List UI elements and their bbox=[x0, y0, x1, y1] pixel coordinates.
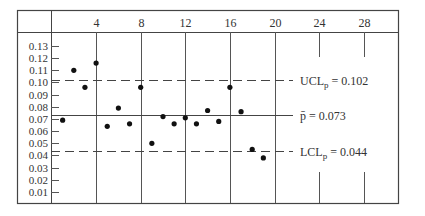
data-point bbox=[194, 121, 199, 126]
x-tick-label: 28 bbox=[359, 16, 371, 30]
data-point bbox=[94, 60, 99, 65]
y-tick-label: 0.09 bbox=[29, 89, 49, 101]
y-tick-label: 0.07 bbox=[29, 113, 49, 125]
center-label: p̄ = 0.073 bbox=[300, 109, 346, 123]
y-tick-label: 0.05 bbox=[29, 137, 49, 149]
y-tick-label: 0.13 bbox=[29, 40, 49, 52]
y-tick-label: 0.06 bbox=[29, 125, 49, 137]
x-tick-label: 12 bbox=[180, 16, 192, 30]
y-tick-label: 0.11 bbox=[29, 64, 48, 76]
data-point bbox=[250, 147, 255, 152]
y-tick-label: 0.12 bbox=[29, 52, 48, 64]
control-limit-lines: UCLp = 0.102p̄ = 0.073LCLp = 0.044 bbox=[51, 74, 368, 161]
data-points bbox=[60, 60, 266, 160]
x-axis-tick-labels: 481216202428 bbox=[94, 16, 371, 30]
x-tick-label: 16 bbox=[225, 16, 237, 30]
data-point bbox=[82, 85, 87, 90]
y-tick-label: 0.01 bbox=[29, 186, 48, 198]
data-point bbox=[116, 105, 121, 110]
y-axis-ticks: 0.130.120.110.100.090.080.070.060.050.04… bbox=[29, 40, 59, 198]
data-point bbox=[205, 108, 210, 113]
data-point bbox=[183, 115, 188, 120]
control-chart: 481216202428 0.130.120.110.100.090.080.0… bbox=[0, 0, 425, 216]
y-tick-label: 0.10 bbox=[29, 76, 49, 88]
data-point bbox=[105, 124, 110, 129]
x-tick-label: 8 bbox=[139, 16, 145, 30]
chart-frame bbox=[18, 11, 399, 204]
x-tick-label: 20 bbox=[270, 16, 282, 30]
lcl-label: LCLp = 0.044 bbox=[300, 145, 367, 161]
data-point bbox=[227, 85, 232, 90]
x-tick-label: 4 bbox=[94, 16, 100, 30]
y-tick-label: 0.02 bbox=[29, 174, 48, 186]
x-tick-label: 24 bbox=[314, 16, 326, 30]
y-tick-label: 0.04 bbox=[29, 149, 49, 161]
data-point bbox=[138, 85, 143, 90]
data-point bbox=[60, 118, 65, 123]
ucl-label: UCLp = 0.102 bbox=[300, 74, 368, 90]
y-tick-label: 0.08 bbox=[29, 101, 49, 113]
data-point bbox=[238, 109, 243, 114]
data-point bbox=[216, 119, 221, 124]
data-point bbox=[160, 114, 165, 119]
data-point bbox=[71, 68, 76, 73]
data-point bbox=[127, 121, 132, 126]
data-point bbox=[261, 155, 266, 160]
data-point bbox=[172, 121, 177, 126]
data-point bbox=[149, 141, 154, 146]
y-tick-label: 0.03 bbox=[29, 162, 49, 174]
